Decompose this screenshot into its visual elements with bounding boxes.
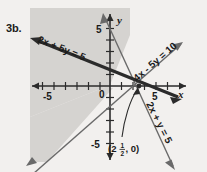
point-label-suffix: , 0) <box>126 143 140 154</box>
problem-label: 3b. <box>6 22 21 34</box>
point-label-frac-denominator: 2 <box>121 150 125 157</box>
origin-label: 0 <box>99 89 105 100</box>
x-tick-label-neg5: -5 <box>43 91 52 102</box>
y-tick-label-neg5: -5 <box>91 139 100 150</box>
y-tick-label-5: 5 <box>96 24 102 35</box>
point-label-prefix: (2 <box>108 143 116 154</box>
y-axis-label: y <box>115 14 122 26</box>
graph-figure: 3b. <box>0 0 207 172</box>
equation-label-4x-5y-10: 4x - 5y = 10 <box>131 40 179 84</box>
callout-leader-line <box>122 90 137 137</box>
equation-label-2x-y-5: 2x + y = 5 <box>144 100 174 146</box>
x-axis-label: x <box>177 88 184 100</box>
point-label-frac-numerator: 1 <box>121 142 125 149</box>
intersection-point-dot <box>137 84 142 89</box>
coordinate-plane: x y -5 5 5 -5 0 2x + 5y = 5 4x - 5y = 10 <box>0 0 207 172</box>
